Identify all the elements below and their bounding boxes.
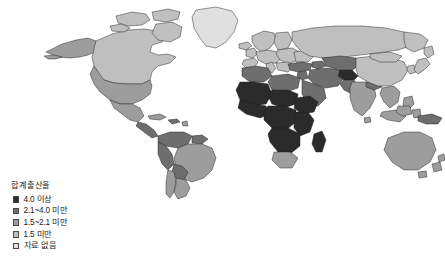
legend-item-2: 1.5~2.1 미만: [11, 217, 141, 229]
legend-swatch-0: [13, 196, 20, 203]
legend-label-3: 1.5 미만: [24, 229, 53, 241]
legend-title: 합계출산율: [11, 181, 141, 191]
legend-label-2: 1.5~2.1 미만: [24, 217, 68, 229]
world-map-svg: [0, 0, 445, 200]
fertility-rate-world-map-figure: 합계출산율 4.0 이상 2.1~4.0 미만 1.5~2.1 미만 1.5 미…: [0, 0, 445, 267]
region-morocco-algeria: [242, 66, 272, 82]
world-map: [0, 0, 445, 200]
legend-label-4: 자료 없음: [24, 240, 58, 252]
legend-item-3: 1.5 미만: [11, 229, 141, 241]
legend-item-1: 2.1~4.0 미만: [11, 205, 141, 217]
legend-label-1: 2.1~4.0 미만: [24, 205, 68, 217]
legend-label-0: 4.0 이상: [24, 194, 53, 206]
region-new-zealand-south: [432, 162, 442, 172]
legend-swatch-3: [13, 231, 20, 238]
legend-swatch-2: [13, 219, 20, 226]
legend-item-4: 자료 없음: [11, 240, 141, 252]
legend-swatch-4: [13, 243, 20, 250]
legend-item-0: 4.0 이상: [11, 194, 141, 206]
legend-swatch-1: [13, 208, 20, 215]
region-lesser-antilles: [182, 121, 188, 126]
region-tasmania: [418, 171, 427, 178]
map-legend: 합계출산율 4.0 이상 2.1~4.0 미만 1.5~2.1 미만 1.5 미…: [11, 181, 141, 252]
region-sri-lanka: [364, 117, 371, 123]
